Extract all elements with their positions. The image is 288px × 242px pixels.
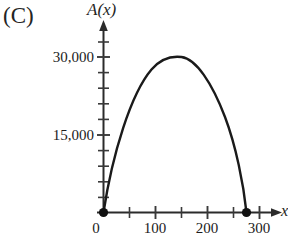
figure-panel: (C) A(x) x 30,000 15,000 0 100 200 300 <box>0 0 288 242</box>
y-axis-arrowhead <box>99 20 108 31</box>
area-function-curve <box>104 57 247 213</box>
endpoint-marker-left <box>99 208 108 217</box>
axes-group <box>97 20 282 217</box>
x-axis-arrowhead <box>271 208 282 217</box>
endpoint-marker-right <box>242 208 251 217</box>
plot-area <box>0 0 288 242</box>
